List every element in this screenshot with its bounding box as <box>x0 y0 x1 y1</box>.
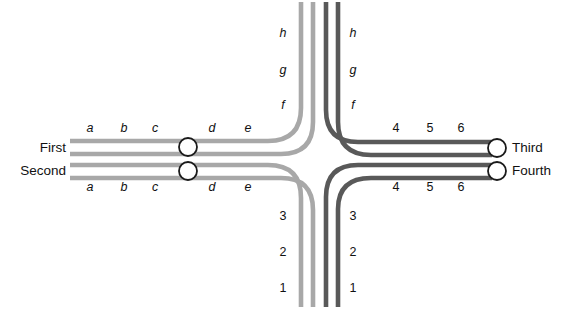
track-second-lower <box>70 178 313 307</box>
segment-label-south-right-1: 1 <box>350 282 357 295</box>
segment-label-west-bottom-b: b <box>121 181 128 194</box>
segment-label-east-bottom-5: 5 <box>427 181 434 194</box>
track-second-upper <box>70 165 301 307</box>
track-crossing-svg <box>0 0 570 309</box>
segment-label-north-left-g: g <box>280 64 287 77</box>
segment-label-north-left-h: h <box>280 27 287 40</box>
segment-label-south-right-2: 2 <box>350 246 357 259</box>
segment-label-west-bottom-a: a <box>87 181 94 194</box>
track-fourth-lower <box>338 178 492 307</box>
terminal-label-first: First <box>40 141 66 155</box>
segment-label-west-bottom-d: d <box>209 181 216 194</box>
segment-label-north-left-f: f <box>281 99 284 112</box>
tracks-layer <box>70 2 492 307</box>
first-node[interactable] <box>179 138 197 156</box>
terminal-label-third: Third <box>512 141 543 155</box>
segment-label-west-bottom-c: c <box>152 181 158 194</box>
segment-label-east-top-6: 6 <box>458 122 465 135</box>
segment-label-west-top-b: b <box>121 122 128 135</box>
segment-label-north-right-g: g <box>350 64 357 77</box>
segment-label-north-right-f: f <box>351 99 354 112</box>
segment-label-west-top-e: e <box>245 122 252 135</box>
diagram-canvas: abcdeabcde456456hgfhgf321321FirstSecondT… <box>0 0 570 309</box>
segment-label-north-right-h: h <box>350 27 357 40</box>
track-first-lower <box>70 2 313 154</box>
segment-label-south-left-2: 2 <box>280 246 287 259</box>
segment-label-south-left-1: 1 <box>280 282 287 295</box>
track-first-upper <box>70 2 301 141</box>
track-third-lower <box>338 2 492 155</box>
segment-label-west-top-a: a <box>87 122 94 135</box>
third-node[interactable] <box>488 139 506 157</box>
segment-label-east-top-4: 4 <box>393 122 400 135</box>
terminal-label-second: Second <box>20 164 66 178</box>
segment-label-west-top-c: c <box>152 122 158 135</box>
segment-label-west-top-d: d <box>209 122 216 135</box>
second-node[interactable] <box>179 162 197 180</box>
segment-label-east-bottom-4: 4 <box>393 181 400 194</box>
fourth-node[interactable] <box>488 162 506 180</box>
segment-label-west-bottom-e: e <box>245 181 252 194</box>
terminal-label-fourth: Fourth <box>512 164 551 178</box>
segment-label-south-left-3: 3 <box>280 210 287 223</box>
segment-label-east-bottom-6: 6 <box>458 181 465 194</box>
segment-label-east-top-5: 5 <box>427 122 434 135</box>
segment-label-south-right-3: 3 <box>350 210 357 223</box>
